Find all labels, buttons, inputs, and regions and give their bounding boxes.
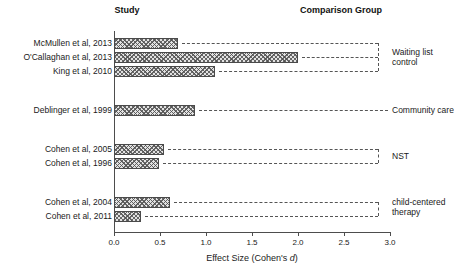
x-tick-label: 1.5	[232, 238, 272, 247]
bar	[114, 211, 141, 222]
x-tick-label: 1.0	[186, 238, 226, 247]
comparison-group-label-line: control	[392, 57, 433, 67]
comparison-group-label: child-centeredtherapy	[392, 197, 445, 217]
bar	[114, 197, 170, 208]
bar	[114, 105, 195, 116]
x-tick-mark	[298, 232, 299, 236]
group-bracket-spine	[378, 202, 379, 216]
group-bracket-spine	[378, 149, 379, 163]
bar	[114, 52, 298, 63]
x-tick-label: 2.0	[278, 238, 318, 247]
x-axis-title: Effect Size (Cohen's d)	[114, 253, 390, 263]
x-tick-mark	[252, 232, 253, 236]
study-label: Deblinger et al, 1999	[0, 105, 112, 115]
study-label-axis: McMullen et al, 2013O'Callaghan et al, 2…	[0, 31, 112, 232]
group-leader-line	[182, 43, 378, 44]
comparison-group-label: NST	[392, 151, 409, 161]
study-label: Cohen et al, 2005	[0, 144, 112, 154]
bar	[114, 66, 215, 77]
x-tick-mark	[344, 232, 345, 236]
comparison-group-label-line: Community care	[392, 105, 454, 115]
comparison-group-label-line: child-centered	[392, 197, 445, 207]
x-tick-mark	[160, 232, 161, 236]
group-leader-line	[219, 71, 378, 72]
bar	[114, 38, 178, 49]
x-tick-label: 0.5	[140, 238, 180, 247]
comparison-group-label-line: NST	[392, 151, 409, 161]
x-tick-mark	[114, 232, 115, 236]
comparison-group-label: Waiting listcontrol	[392, 47, 433, 67]
study-label: Cohen et al, 2011	[0, 211, 112, 221]
x-tick-mark	[390, 232, 391, 236]
x-tick-label: 0.0	[94, 238, 134, 247]
x-tick-label: 2.5	[324, 238, 364, 247]
group-leader-line	[302, 57, 378, 58]
comparison-group-label-line: Waiting list	[392, 47, 433, 57]
x-tick-mark	[206, 232, 207, 236]
comparison-group-column-header: Comparison Group	[300, 5, 418, 15]
study-label: Cohen et al, 1996	[0, 158, 112, 168]
group-leader-line	[168, 149, 378, 150]
study-label: King et al, 2010	[0, 66, 112, 76]
group-leader-line	[174, 202, 378, 203]
study-label: Cohen et al, 2004	[0, 197, 112, 207]
group-leader-line	[145, 216, 378, 217]
cohens-d-symbol: d	[290, 253, 295, 263]
plot-area: 0.00.51.01.52.02.53.0 Waiting listcontro…	[114, 31, 390, 232]
comparison-group-label: Community care	[392, 105, 454, 115]
group-bracket-spine	[378, 43, 379, 71]
group-leader-line	[163, 163, 378, 164]
study-label: McMullen et al, 2013	[0, 38, 112, 48]
x-tick-label: 3.0	[370, 238, 410, 247]
bar	[114, 144, 164, 155]
comparison-group-label-line: therapy	[392, 207, 445, 217]
study-label: O'Callaghan et al, 2013	[0, 52, 112, 62]
bar	[114, 158, 159, 169]
group-leader-line	[199, 110, 388, 111]
study-column-header: Study	[62, 5, 192, 15]
